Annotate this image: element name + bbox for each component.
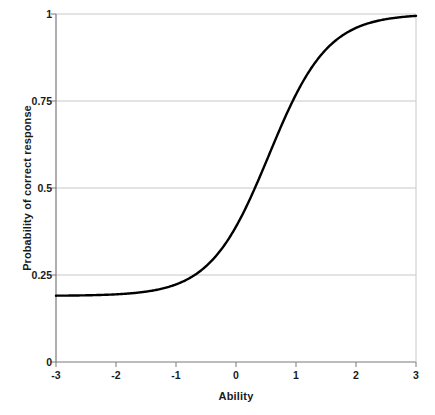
item-characteristic-curve: [56, 16, 416, 296]
y-tick-label-0-75: 0.75: [6, 95, 52, 107]
x-tick-label-0: 0: [216, 369, 256, 381]
x-tick-label-1: 1: [276, 369, 316, 381]
x-tick-label-2: 2: [336, 369, 376, 381]
axis-ticks: [51, 14, 416, 367]
y-tick-label-0-5: 0.5: [6, 182, 52, 194]
x-tick-label--3: -3: [36, 369, 76, 381]
x-tick-label-3: 3: [396, 369, 435, 381]
chart-figure: Probability of correct response 1 0.75 0…: [0, 0, 435, 415]
y-tick-label-0-25: 0.25: [6, 269, 52, 281]
plot-area: [0, 0, 435, 415]
gridlines: [56, 14, 416, 275]
x-tick-label--2: -2: [96, 369, 136, 381]
y-tick-label-0: 0: [6, 356, 52, 368]
x-axis-title: Ability: [56, 390, 416, 402]
y-tick-label-1: 1: [6, 8, 52, 20]
x-tick-label--1: -1: [156, 369, 196, 381]
